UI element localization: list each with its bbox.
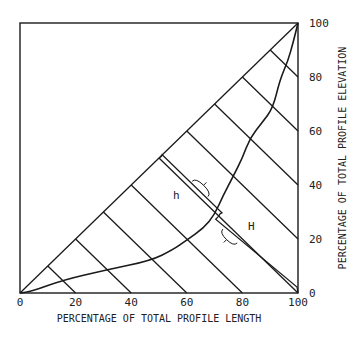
perpendicular-line-50 [159, 158, 298, 293]
y-axis-label: PERCENTAGE OF TOTAL PROFILE ELEVATION [337, 47, 348, 270]
y-tick-labels: 020406080100 [309, 17, 329, 300]
y-tick-label-60: 60 [309, 125, 322, 138]
perpendicular-line-10 [48, 266, 76, 293]
annotation-h-label: h [173, 189, 180, 202]
annotation-H-label: H [248, 220, 255, 233]
perpendicular-line-80 [242, 77, 298, 131]
x-axis-label: PERCENTAGE OF TOTAL PROFILE LENGTH [57, 313, 262, 324]
hypsometric-diagram: 020406080100 020406080100 PERCENTAGE OF … [0, 0, 358, 339]
y-tick-label-0: 0 [309, 287, 316, 300]
perpendicular-line-70 [215, 104, 298, 185]
y-tick-label-100: 100 [309, 17, 329, 30]
x-tick-label-80: 80 [236, 296, 249, 309]
perpendicular-line-90 [270, 50, 298, 77]
x-tick-label-0: 0 [17, 296, 24, 309]
x-tick-label-60: 60 [180, 296, 193, 309]
h-brace [192, 180, 209, 196]
y-tick-label-20: 20 [309, 233, 322, 246]
perpendicular-line-30 [103, 212, 186, 293]
x-tick-labels: 020406080100 [17, 296, 308, 309]
y-tick-label-40: 40 [309, 179, 322, 192]
y-tick-label-80: 80 [309, 71, 322, 84]
x-tick-label-20: 20 [69, 296, 82, 309]
h-band [159, 155, 222, 216]
x-tick-label-100: 100 [288, 296, 308, 309]
x-tick-label-40: 40 [125, 296, 138, 309]
plot-area [20, 23, 298, 293]
